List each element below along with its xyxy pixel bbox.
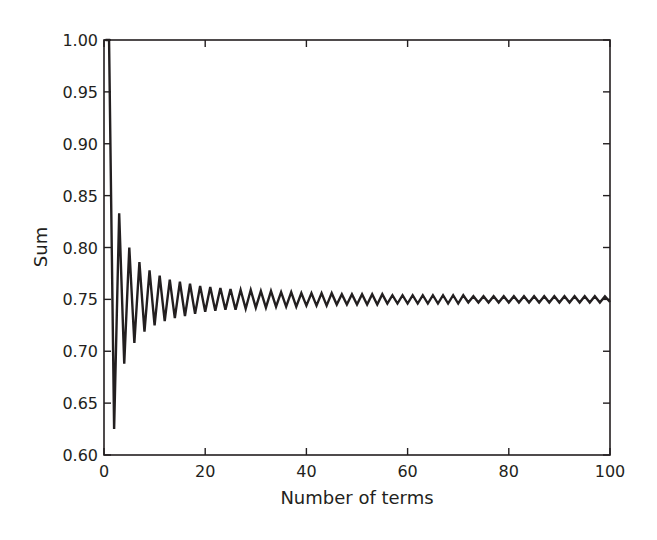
y-axis-tick-labels: 0.600.650.700.750.800.850.900.951.00 [62,31,98,465]
y-axis-title: Sum [30,227,51,267]
y-tick-label: 0.65 [62,394,98,413]
y-tick-label: 0.90 [62,135,98,154]
x-tick-label: 80 [499,462,519,481]
y-tick-label: 0.80 [62,239,98,258]
y-tick-label: 0.85 [62,187,98,206]
x-axis-title: Number of terms [280,487,433,508]
partial-sum-line [106,40,610,429]
x-axis-tick-labels: 020406080100 [99,462,625,481]
x-tick-label: 20 [195,462,215,481]
plot-frame [104,40,610,455]
y-tick-label: 0.60 [62,446,98,465]
x-tick-label: 0 [99,462,109,481]
y-tick-label: 0.70 [62,342,98,361]
y-tick-label: 1.00 [62,31,98,50]
y-tick-label: 0.75 [62,290,98,309]
line-chart: 020406080100 0.600.650.700.750.800.850.9… [0,0,657,540]
plot-border [104,40,610,455]
x-tick-label: 100 [595,462,626,481]
x-tick-label: 60 [397,462,417,481]
y-axis-ticks [104,40,610,455]
y-tick-label: 0.95 [62,83,98,102]
x-tick-label: 40 [296,462,316,481]
x-axis-ticks [104,40,610,455]
